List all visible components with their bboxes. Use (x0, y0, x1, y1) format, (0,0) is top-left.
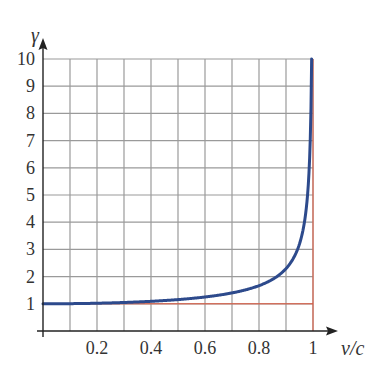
y-tick-label: 1 (26, 294, 35, 314)
y-tick-label: 4 (26, 212, 35, 232)
y-tick-label: 10 (17, 49, 35, 69)
y-tick-label: 9 (26, 76, 35, 96)
y-tick-label: 6 (26, 158, 35, 178)
y-tick-label: 3 (26, 239, 35, 259)
axes (37, 38, 338, 337)
grid (43, 59, 313, 331)
x-axis-label: v/c (341, 337, 364, 359)
x-tick-label: 0.4 (140, 338, 163, 358)
y-axis-label: γ (31, 24, 40, 47)
y-tick-labels: 12345678910 (17, 49, 35, 314)
y-tick-label: 2 (26, 267, 35, 287)
x-tick-label: 0.8 (248, 338, 271, 358)
gamma-curve (43, 59, 312, 304)
gamma-chart: 0.20.40.60.81 12345678910 v/c γ (0, 0, 390, 371)
x-tick-label: 0.6 (194, 338, 217, 358)
y-tick-label: 5 (26, 185, 35, 205)
y-tick-label: 7 (26, 131, 35, 151)
x-tick-labels: 0.20.40.60.81 (86, 338, 318, 358)
x-tick-label: 1 (309, 338, 318, 358)
y-tick-label: 8 (26, 103, 35, 123)
x-tick-label: 0.2 (86, 338, 109, 358)
